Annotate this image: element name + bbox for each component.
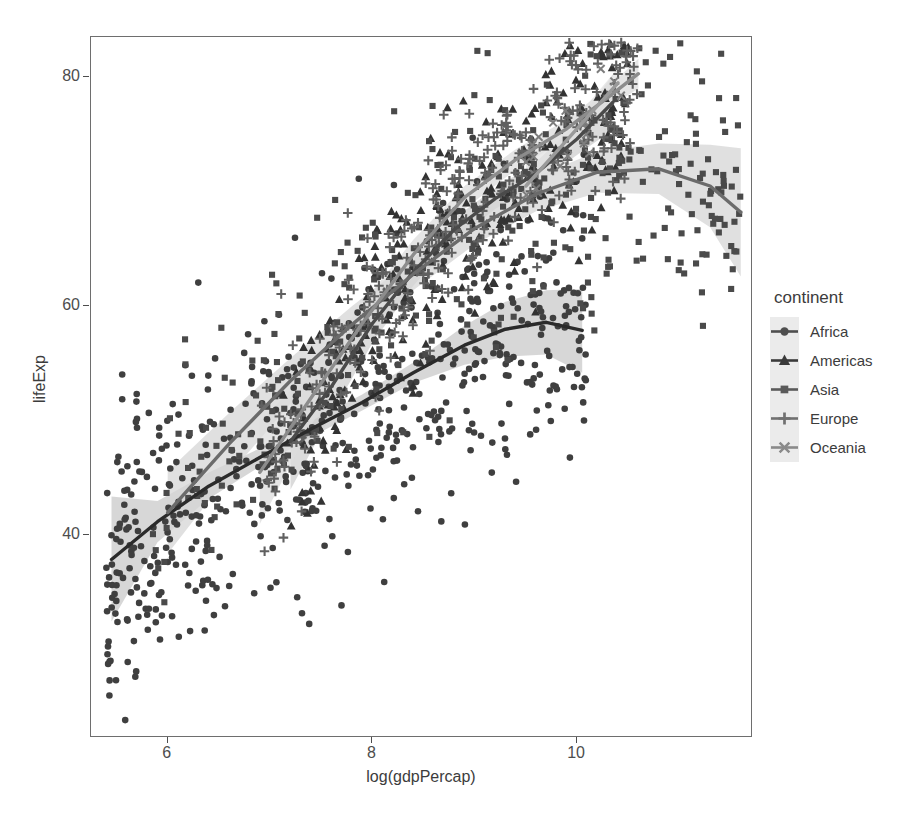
- x-tick-label: 6: [137, 745, 197, 761]
- y-tick-mark: [83, 305, 89, 306]
- legend-label: Americas: [810, 352, 873, 369]
- legend-label: Africa: [810, 323, 848, 340]
- chart-root: 40 60 80 lifeExp 6 8 10 log(gdpPercap) c…: [0, 0, 917, 824]
- y-tick-label: 80: [38, 68, 80, 84]
- plot-canvas: [91, 37, 751, 736]
- legend-key-asia-icon: [770, 375, 799, 404]
- legend-label: Europe: [810, 410, 858, 427]
- x-tick-mark: [576, 737, 577, 743]
- legend-key-europe-icon: [770, 404, 799, 433]
- legend: continent AfricaAmericasAsiaEuropeOceani…: [770, 288, 873, 462]
- scatter-points: [103, 38, 743, 724]
- legend-key-americas-icon: [770, 346, 799, 375]
- legend-item-oceania[interactable]: Oceania: [770, 433, 873, 462]
- legend-item-europe[interactable]: Europe: [770, 404, 873, 433]
- y-axis-title: lifeExp: [31, 319, 49, 439]
- x-axis-title: log(gdpPercap): [90, 768, 752, 786]
- legend-key-oceania-icon: [770, 433, 799, 462]
- legend-label: Oceania: [810, 439, 866, 456]
- legend-item-africa[interactable]: Africa: [770, 317, 873, 346]
- x-tick-mark: [167, 737, 168, 743]
- legend-item-americas[interactable]: Americas: [770, 346, 873, 375]
- legend-label: Asia: [810, 381, 839, 398]
- x-tick-mark: [371, 737, 372, 743]
- y-tick-mark: [83, 76, 89, 77]
- plot-panel: [90, 36, 752, 737]
- y-tick-label: 40: [38, 526, 80, 542]
- legend-title: continent: [774, 288, 873, 308]
- y-tick-label: 60: [38, 297, 80, 313]
- x-tick-label: 10: [546, 745, 606, 761]
- x-tick-label: 8: [341, 745, 401, 761]
- y-tick-mark: [83, 534, 89, 535]
- legend-key-africa-icon: [770, 317, 799, 346]
- legend-item-asia[interactable]: Asia: [770, 375, 873, 404]
- legend-items: AfricaAmericasAsiaEuropeOceania: [770, 317, 873, 462]
